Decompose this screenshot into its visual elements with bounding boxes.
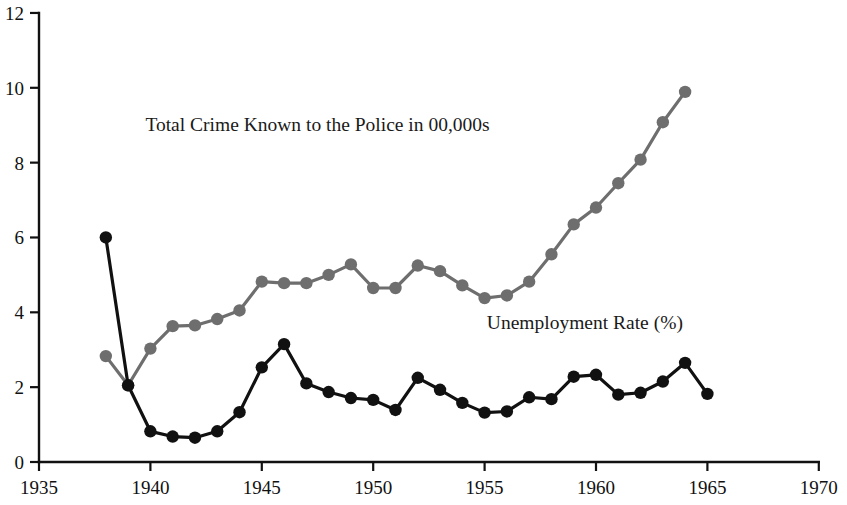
y-tick-label: 2 <box>15 377 25 398</box>
data-point <box>657 116 669 128</box>
data-point <box>367 282 379 294</box>
data-point <box>679 86 691 98</box>
data-point <box>568 218 580 230</box>
data-point <box>523 275 535 287</box>
data-point <box>189 319 201 331</box>
data-point <box>634 387 646 399</box>
data-point <box>456 279 468 291</box>
data-point <box>590 201 602 213</box>
data-point <box>568 370 580 382</box>
series-unemployment <box>100 231 714 444</box>
data-point <box>256 275 268 287</box>
data-point <box>166 430 178 442</box>
x-tick-label: 1970 <box>800 477 838 498</box>
data-point <box>434 384 446 396</box>
data-point <box>523 391 535 403</box>
data-point <box>478 406 490 418</box>
data-point <box>300 377 312 389</box>
data-point <box>189 431 201 443</box>
x-tick-label: 1950 <box>354 477 392 498</box>
data-point <box>211 313 223 325</box>
data-point <box>278 277 290 289</box>
series-line <box>106 92 685 385</box>
data-point <box>634 153 646 165</box>
data-point <box>122 379 134 391</box>
data-point <box>367 394 379 406</box>
data-point <box>144 425 156 437</box>
y-tick-label: 6 <box>15 227 25 248</box>
data-point <box>389 282 401 294</box>
crime-series-label: Total Crime Known to the Police in 00,00… <box>145 114 489 135</box>
data-point <box>345 258 357 270</box>
data-point <box>657 375 669 387</box>
x-tick-label: 1935 <box>20 477 58 498</box>
data-point <box>590 369 602 381</box>
x-tick-label: 1960 <box>577 477 615 498</box>
series-line <box>106 237 708 437</box>
y-tick-label: 8 <box>15 153 25 174</box>
unemployment-series-label: Unemployment Rate (%) <box>487 312 683 334</box>
x-tick-label: 1965 <box>688 477 726 498</box>
data-point <box>100 231 112 243</box>
data-point <box>144 342 156 354</box>
data-point <box>478 292 490 304</box>
data-series-group <box>100 86 714 444</box>
data-point <box>322 386 334 398</box>
y-axis: 024681012 <box>5 3 39 473</box>
data-point <box>545 393 557 405</box>
data-point <box>100 350 112 362</box>
data-point <box>412 259 424 271</box>
data-point <box>701 388 713 400</box>
y-tick-label: 4 <box>15 302 25 323</box>
y-tick-label: 12 <box>5 3 24 24</box>
data-point <box>389 404 401 416</box>
data-point <box>278 338 290 350</box>
chart-container: 024681012 193519401945195019551960196519… <box>0 0 847 505</box>
data-point <box>233 406 245 418</box>
data-point <box>612 177 624 189</box>
y-tick-label: 0 <box>15 452 25 473</box>
x-axis: 19351940194519501955196019651970 <box>20 462 838 498</box>
data-point <box>501 289 513 301</box>
data-point <box>345 392 357 404</box>
data-point <box>322 269 334 281</box>
data-point <box>456 397 468 409</box>
data-point <box>612 388 624 400</box>
data-point <box>412 372 424 384</box>
data-point <box>545 248 557 260</box>
x-tick-label: 1955 <box>466 477 504 498</box>
series-annotations: Total Crime Known to the Police in 00,00… <box>145 114 682 334</box>
data-point <box>434 265 446 277</box>
data-point <box>300 277 312 289</box>
data-point <box>166 320 178 332</box>
data-point <box>211 425 223 437</box>
x-tick-label: 1945 <box>243 477 281 498</box>
data-point <box>256 361 268 373</box>
y-tick-label: 10 <box>5 78 24 99</box>
line-chart-plot: 024681012 193519401945195019551960196519… <box>0 0 847 505</box>
x-tick-label: 1940 <box>131 477 169 498</box>
data-point <box>233 304 245 316</box>
data-point <box>501 405 513 417</box>
data-point <box>679 357 691 369</box>
